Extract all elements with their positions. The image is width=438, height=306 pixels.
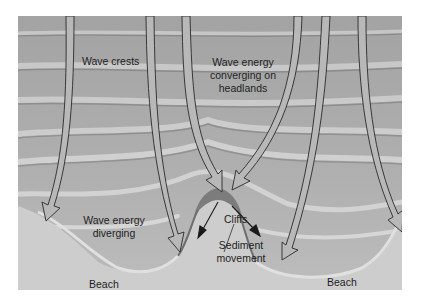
label-wave-energy-converging: Wave energy converging on headlands: [198, 56, 288, 95]
label-converging-line-3: headlands: [198, 82, 288, 95]
label-wave-crests: Wave crests: [82, 55, 139, 68]
wave-refraction-diagram: Wave crests Wave energy converging on he…: [18, 16, 402, 290]
label-wave-energy-diverging: Wave energy diverging: [74, 214, 154, 240]
label-converging-line-1: Wave energy: [198, 56, 288, 69]
label-beach-left: Beach: [89, 278, 119, 290]
label-sediment-movement: Sediment movement: [206, 239, 276, 265]
label-diverging-line-1: Wave energy: [74, 214, 154, 227]
label-diverging-line-2: diverging: [74, 227, 154, 240]
label-beach-right: Beach: [327, 276, 357, 289]
label-converging-line-2: converging on: [198, 69, 288, 82]
label-sediment-line-2: movement: [206, 252, 276, 265]
label-sediment-line-1: Sediment: [206, 239, 276, 252]
label-cliffs: Cliffs: [224, 213, 247, 226]
